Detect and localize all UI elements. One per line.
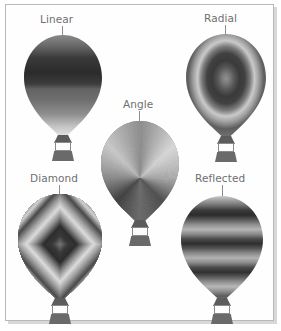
balloon-envelope-diamond <box>18 194 102 302</box>
balloon-linear: Linear <box>24 13 102 163</box>
balloon-basket-reflected <box>211 314 233 324</box>
balloon-envelope-radial <box>186 34 266 140</box>
balloon-label-reflected: Reflected <box>195 172 245 184</box>
balloon-label-diamond: Diamond <box>30 172 78 184</box>
balloon-label-radial: Radial <box>204 12 237 24</box>
balloon-burner-angle <box>132 227 148 236</box>
balloon-basket-radial <box>215 152 237 162</box>
balloon-burner-reflected <box>214 305 230 314</box>
balloon-basket-angle <box>129 236 151 246</box>
balloon-label-angle: Angle <box>123 98 153 110</box>
balloon-angle: Angle <box>101 98 179 246</box>
balloon-diamond: Diamond <box>18 172 102 324</box>
balloon-radial: Radial <box>186 12 266 164</box>
balloon-reflected: Reflected <box>181 172 263 324</box>
balloon-stage: Linear Radial Angle <box>0 0 281 331</box>
balloon-basket-linear <box>52 151 74 161</box>
balloon-envelope-angle <box>101 121 179 225</box>
balloon-burner-radial <box>218 143 234 152</box>
balloon-envelope-reflected <box>181 196 263 302</box>
balloon-basket-diamond <box>49 314 71 324</box>
balloon-burner-diamond <box>52 305 68 314</box>
figure-canvas: Linear Radial Angle <box>0 0 281 331</box>
balloon-envelope-linear <box>24 35 102 139</box>
balloon-label-linear: Linear <box>40 13 73 25</box>
balloon-burner-linear <box>55 142 71 151</box>
